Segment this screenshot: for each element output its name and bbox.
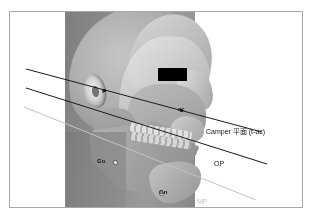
plane-label-camper: Camper 平面 (t-ac)	[206, 128, 265, 135]
figure-root: t ac Go Gn Camper 平面 (t-ac) OP MP	[0, 0, 310, 222]
landmark-label-gn: Gn	[159, 189, 167, 195]
landmark-label-t: t	[102, 88, 104, 94]
occlusal-plane-line	[26, 88, 267, 164]
landmark-label-go: Go	[97, 158, 105, 164]
cephalometric-scan-image: t ac Go Gn Camper 平面 (t-ac) OP MP	[10, 12, 302, 207]
figure-frame: t ac Go Gn Camper 平面 (t-ac) OP MP	[9, 11, 303, 208]
landmark-marker-go	[114, 161, 117, 164]
camper-plane-line	[26, 69, 262, 132]
reference-plane-lines	[10, 12, 302, 207]
landmark-label-ac: ac	[178, 106, 185, 112]
plane-label-mp: MP	[197, 198, 208, 205]
plane-label-op: OP	[214, 160, 224, 167]
